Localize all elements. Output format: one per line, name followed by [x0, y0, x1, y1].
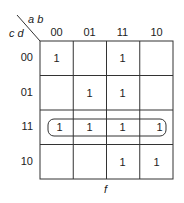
kmap-cell: 1: [106, 76, 139, 110]
kmap-cell: [140, 76, 173, 110]
col-header: 11: [106, 26, 139, 38]
col-header: 10: [140, 26, 173, 38]
kmap-cell: 1: [106, 41, 139, 75]
kmap-cell: 1: [143, 110, 176, 144]
row-header: 00: [9, 51, 33, 63]
kmap-cell: 1: [106, 145, 139, 179]
col-header: 00: [40, 26, 73, 38]
row-header: 10: [9, 155, 33, 167]
function-label: f: [104, 183, 107, 195]
row-header: 11: [9, 120, 33, 132]
col-header: 01: [73, 26, 106, 38]
kmap-cell: 1: [40, 41, 73, 75]
kmap-cell: 1: [43, 110, 76, 144]
kmap-cell: 1: [73, 110, 106, 144]
kmap-cell: 1: [73, 76, 106, 110]
kmap-cell: [73, 145, 106, 179]
row-var-label: c d: [9, 27, 24, 39]
col-var-label: a b: [28, 13, 43, 25]
row-header: 01: [9, 86, 33, 98]
kmap-cell: 1: [140, 145, 173, 179]
kmap-cell: 1: [106, 110, 139, 144]
kmap-cell: [140, 41, 173, 75]
kmap-cell: [73, 41, 106, 75]
kmap-cell: [40, 76, 73, 110]
kmap-cell: [40, 145, 73, 179]
